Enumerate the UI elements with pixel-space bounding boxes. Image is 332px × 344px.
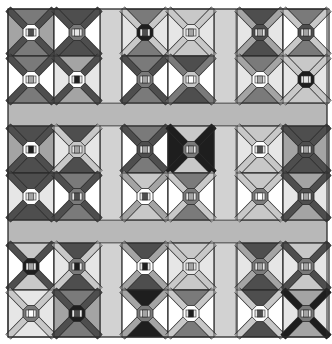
block-center-square: [258, 263, 263, 270]
quilt-block: [237, 56, 283, 103]
block-center-square: [189, 146, 194, 153]
sashing-horizontal-2: [8, 220, 327, 243]
quilt-block: [237, 243, 283, 290]
quilt-block: [54, 9, 100, 56]
quilt-block: [8, 56, 54, 103]
block-center-square: [304, 146, 309, 153]
block-center-square: [189, 193, 194, 200]
quilt-block: [283, 290, 329, 337]
block-center-square: [258, 193, 263, 200]
block-center-square: [143, 146, 148, 153]
block-center-square: [75, 310, 80, 317]
quilt-block: [237, 126, 283, 173]
block-center-square: [75, 193, 80, 200]
block-center-square: [304, 263, 309, 270]
quilt-block: [168, 290, 214, 337]
block-center-square: [258, 310, 263, 317]
quilt-block: [283, 243, 329, 290]
block-center-square: [143, 310, 148, 317]
quilt-block: [54, 243, 100, 290]
sashing-vertical: [214, 126, 236, 220]
sashing-vertical: [100, 243, 122, 337]
block-center-square: [143, 76, 148, 83]
quilt-block: [122, 9, 168, 56]
quilt-block: [283, 56, 329, 103]
quilt-block: [237, 290, 283, 337]
block-center-square: [29, 193, 34, 200]
quilt-block: [237, 173, 283, 220]
block-center-square: [75, 76, 80, 83]
block-center-square: [304, 29, 309, 36]
block-center-square: [29, 146, 34, 153]
quilt-block: [8, 290, 54, 337]
quilt-block: [54, 173, 100, 220]
block-center-square: [29, 76, 34, 83]
block-center-square: [29, 263, 34, 270]
quilt-block: [168, 56, 214, 103]
block-center-square: [304, 76, 309, 83]
quilt-block: [122, 290, 168, 337]
sashing-vertical: [214, 243, 236, 337]
quilt-block: [283, 126, 329, 173]
quilt-block: [54, 56, 100, 103]
sashing-vertical: [100, 126, 122, 220]
sashing-horizontal-1: [8, 103, 327, 126]
quilt-block: [122, 56, 168, 103]
quilt-block: [8, 173, 54, 220]
block-center-square: [189, 310, 194, 317]
quilt-block: [8, 243, 54, 290]
block-center-square: [75, 263, 80, 270]
quilt-block: [54, 126, 100, 173]
quilt-block: [283, 173, 329, 220]
block-center-square: [258, 29, 263, 36]
block-center-square: [75, 29, 80, 36]
quilt-block: [237, 9, 283, 56]
block-center-square: [258, 76, 263, 83]
block-center-square: [304, 193, 309, 200]
block-center-square: [143, 29, 148, 36]
quilt-block: [122, 173, 168, 220]
block-center-square: [75, 146, 80, 153]
quilt-block: [168, 243, 214, 290]
quilt-block: [283, 9, 329, 56]
block-center-square: [189, 76, 194, 83]
block-center-square: [258, 146, 263, 153]
quilt-block: [168, 173, 214, 220]
quilt-image: [0, 0, 332, 344]
quilt-block: [8, 9, 54, 56]
quilt-block: [168, 126, 214, 173]
block-center-square: [189, 263, 194, 270]
block-center-square: [29, 29, 34, 36]
sashing-vertical: [100, 9, 122, 103]
quilt-block: [122, 126, 168, 173]
sashing-vertical: [214, 9, 236, 103]
block-center-square: [143, 193, 148, 200]
quilt-block: [168, 9, 214, 56]
quilt-block: [54, 290, 100, 337]
block-center-square: [189, 29, 194, 36]
block-center-square: [304, 310, 309, 317]
block-center-square: [143, 263, 148, 270]
block-center-square: [29, 310, 34, 317]
quilt-block: [8, 126, 54, 173]
quilt-block: [122, 243, 168, 290]
